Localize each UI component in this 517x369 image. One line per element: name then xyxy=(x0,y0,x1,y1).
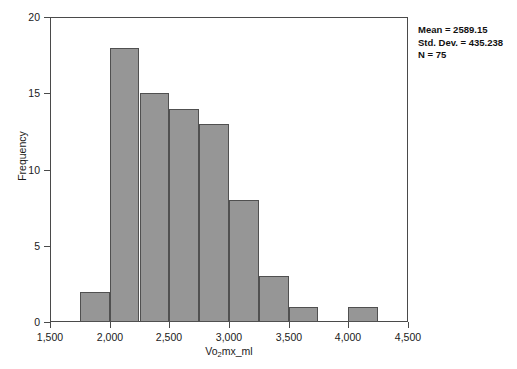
x-axis-tick-mark xyxy=(50,322,51,328)
y-axis-tick-mark xyxy=(44,93,50,94)
mean-label: Mean = 2589.15 xyxy=(418,24,514,37)
x-axis-tick-mark xyxy=(110,322,111,328)
histogram-figure: 051015201,5002,0002,5003,0003,5004,0004,… xyxy=(0,0,517,369)
statistics-annotation: Mean = 2589.15 Std. Dev. = 435.238 N = 7… xyxy=(418,24,514,62)
x-axis-title-post: mx_ml xyxy=(222,345,253,357)
x-axis-tick-mark xyxy=(408,322,409,328)
x-axis-tick-label: 2,000 xyxy=(80,331,140,343)
sample-size-label: N = 75 xyxy=(418,49,514,62)
std-dev-label: Std. Dev. = 435.238 xyxy=(418,37,514,50)
x-axis-title-pre: Vo xyxy=(205,345,217,357)
y-axis-tick-label: 0 xyxy=(0,317,40,328)
x-axis-tick-label: 4,000 xyxy=(318,331,378,343)
x-axis-tick-label: 1,500 xyxy=(20,331,80,343)
x-axis-tick-mark xyxy=(289,322,290,328)
y-axis-tick-label: 5 xyxy=(0,241,40,252)
x-axis-tick-mark xyxy=(169,322,170,328)
x-axis-tick-mark xyxy=(229,322,230,328)
x-axis-title-subscript: 2 xyxy=(218,350,222,359)
y-axis-tick-mark xyxy=(44,170,50,171)
y-axis-tick-mark xyxy=(44,246,50,247)
y-axis-tick-mark xyxy=(44,17,50,18)
x-axis-tick-label: 3,500 xyxy=(259,331,319,343)
x-axis-tick-label: 3,000 xyxy=(199,331,259,343)
x-axis-tick-label: 2,500 xyxy=(139,331,199,343)
y-axis-title: Frequency xyxy=(16,96,28,216)
x-axis-tick-label: 4,500 xyxy=(378,331,438,343)
x-axis-tick-mark xyxy=(348,322,349,328)
x-axis-title: Vo2mx_ml xyxy=(50,345,408,359)
y-axis-tick-label: 20 xyxy=(0,12,40,23)
